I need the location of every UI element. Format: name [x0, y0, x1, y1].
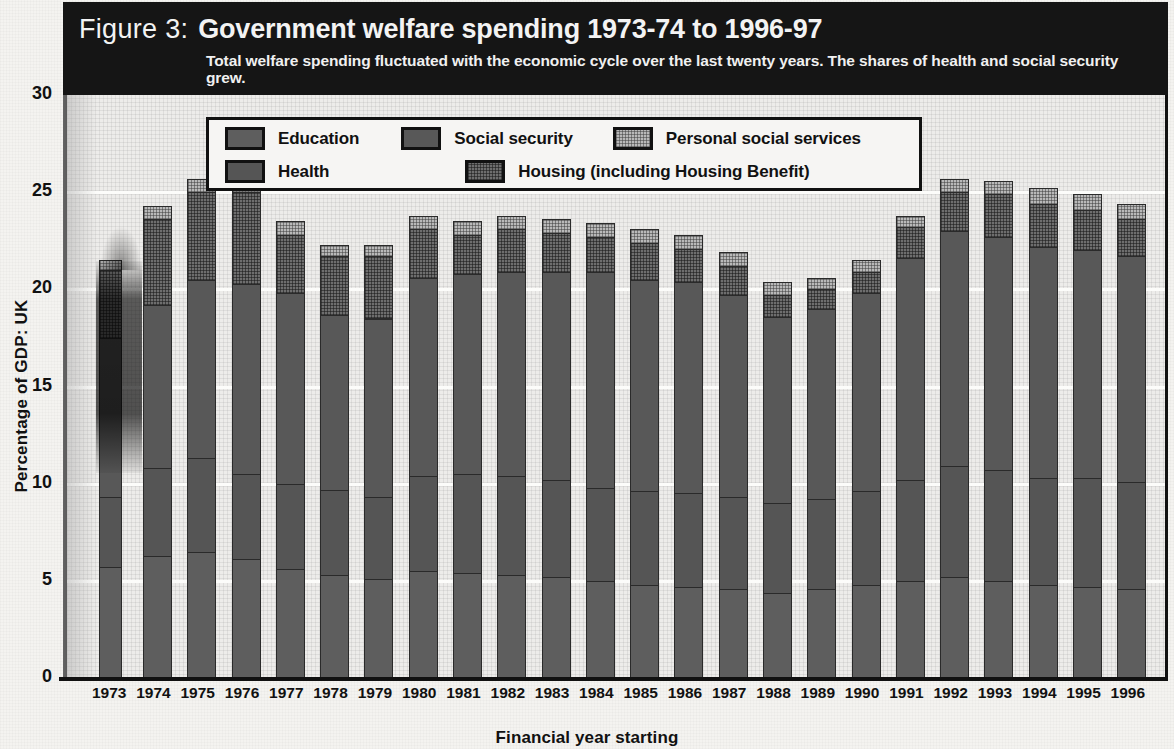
bar-segment-health-1973 [99, 497, 122, 568]
bar-segment-education-1987 [719, 589, 748, 679]
x-tick-label-1996: 1996 [1100, 684, 1156, 702]
bar-segment-social-security-1984 [586, 272, 615, 489]
bar-segment-personal-social-services-1983 [542, 219, 571, 234]
legend-item-social-security: Social security [401, 127, 573, 150]
bar-segment-personal-social-services-1977 [276, 221, 305, 236]
bar-segment-personal-social-services-1980 [409, 216, 438, 231]
bar-segment-social-security-1996 [1117, 256, 1146, 482]
bar-1973 [99, 261, 122, 679]
bar-segment-health-1991 [896, 480, 925, 582]
bar-segment-social-security-1990 [852, 293, 881, 492]
bar-segment-health-1977 [276, 484, 305, 571]
bar-segment-education-1990 [852, 585, 881, 679]
bar-segment-health-1993 [984, 470, 1013, 582]
bar-segment-personal-social-services-1979 [364, 245, 393, 258]
legend-swatch-housing-icon [465, 160, 505, 183]
bar-segment-personal-social-services-1993 [984, 181, 1013, 196]
bar-segment-health-1976 [232, 474, 261, 561]
bar-segment-personal-social-services-1981 [453, 221, 482, 236]
bar-segment-social-security-1991 [896, 258, 925, 481]
bar-segment-housing-1982 [497, 229, 526, 273]
bar-segment-health-1996 [1117, 482, 1146, 590]
bar-segment-education-1994 [1029, 585, 1058, 679]
bar-1974 [143, 207, 172, 679]
bar-1994 [1029, 189, 1058, 679]
legend-row-1: Education Social security Personal socia… [209, 123, 919, 154]
bar-1986 [674, 236, 703, 679]
bar-segment-social-security-1995 [1073, 250, 1102, 478]
bar-segment-social-security-1977 [276, 293, 305, 484]
bar-1980 [409, 217, 438, 680]
x-axis-ticks: 1973197419751976197719781979198019811982… [0, 684, 1174, 710]
legend-label-personal-social-services: Personal social services [666, 129, 861, 149]
bar-segment-education-1992 [940, 577, 969, 679]
figure-label: Figure 3: [79, 14, 188, 44]
bar-segment-housing-1977 [276, 235, 305, 294]
bar-segment-social-security-1973 [99, 338, 122, 498]
legend: Education Social security Personal socia… [206, 117, 922, 191]
bar-segment-education-1984 [586, 581, 615, 679]
bar-segment-personal-social-services-1984 [586, 223, 615, 238]
bar-segment-housing-1979 [364, 256, 393, 319]
bar-segment-housing-1986 [674, 249, 703, 283]
bar-1975 [187, 180, 216, 679]
bar-1995 [1073, 195, 1102, 679]
bar-segment-social-security-1981 [453, 274, 482, 475]
figure-subtitle: Total welfare spending fluctuated with t… [206, 52, 1146, 86]
bar-1989 [807, 279, 836, 679]
bar-1987 [719, 253, 748, 679]
bar-segment-social-security-1993 [984, 237, 1013, 471]
bar-segment-social-security-1979 [364, 319, 393, 499]
legend-item-personal-social-services: Personal social services [613, 127, 861, 150]
bar-segment-education-1985 [630, 585, 659, 679]
bar-segment-housing-1995 [1073, 210, 1102, 252]
y-tick-label-30: 30 [6, 83, 52, 104]
bar-segment-education-1993 [984, 581, 1013, 679]
bar-segment-housing-1973 [99, 270, 122, 339]
bar-segment-health-1982 [497, 476, 526, 576]
bar-segment-housing-1996 [1117, 219, 1146, 257]
bar-segment-health-1986 [674, 493, 703, 587]
bar-segment-social-security-1988 [763, 317, 792, 505]
bar-1988 [763, 283, 792, 679]
x-axis-line [59, 677, 1168, 681]
legend-swatch-personal-social-services-icon [613, 127, 653, 150]
legend-label-education: Education [278, 129, 359, 149]
bar-segment-education-1995 [1073, 587, 1102, 679]
bar-segment-health-1980 [409, 476, 438, 572]
legend-label-health: Health [278, 162, 329, 182]
bar-segment-housing-1987 [719, 266, 748, 296]
bar-segment-housing-1981 [453, 235, 482, 275]
legend-label-housing: Housing (including Housing Benefit) [518, 162, 809, 182]
bar-segment-social-security-1992 [940, 231, 969, 467]
bar-segment-housing-1993 [984, 194, 1013, 238]
bar-segment-health-1992 [940, 466, 969, 578]
bar-segment-personal-social-services-1974 [143, 206, 172, 221]
bar-segment-social-security-1975 [187, 280, 216, 460]
bar-1996 [1117, 205, 1146, 679]
bar-segment-education-1979 [364, 579, 393, 679]
bar-segment-health-1978 [320, 490, 349, 577]
figure-root: Figure 3:Government welfare spending 197… [0, 0, 1174, 749]
bar-segment-social-security-1989 [807, 309, 836, 500]
bar-segment-health-1984 [586, 488, 615, 582]
bar-segment-education-1996 [1117, 589, 1146, 679]
bar-segment-personal-social-services-1992 [940, 179, 969, 194]
bar-segment-education-1982 [497, 575, 526, 679]
bar-1985 [630, 230, 659, 679]
bar-segment-education-1978 [320, 575, 349, 679]
bar-segment-education-1981 [453, 573, 482, 679]
bar-1982 [497, 217, 526, 680]
legend-label-social-security: Social security [454, 129, 573, 149]
bar-1978 [320, 246, 349, 679]
title-row: Figure 3:Government welfare spending 197… [79, 14, 822, 45]
bar-segment-housing-1992 [940, 192, 969, 232]
bar-segment-social-security-1974 [143, 305, 172, 469]
bar-1979 [364, 246, 393, 679]
bar-segment-personal-social-services-1985 [630, 229, 659, 244]
bar-segment-health-1989 [807, 499, 836, 589]
bar-segment-housing-1980 [409, 229, 438, 279]
legend-row-2: Health Housing (including Housing Benefi… [209, 156, 919, 187]
bar-segment-personal-social-services-1989 [807, 278, 836, 291]
bar-1993 [984, 182, 1013, 679]
